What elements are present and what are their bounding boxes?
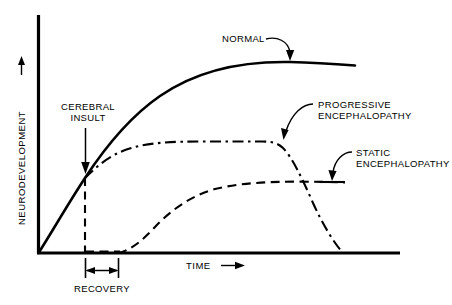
recovery-arrow-right-icon bbox=[109, 267, 119, 274]
figure-page: NEURODEVELOPMENT TIME CEREBRAL bbox=[0, 0, 452, 305]
y-axis-arrow-icon bbox=[18, 56, 25, 75]
static-encephalopathy-label-line2: ENCEPHALOPATHY bbox=[356, 158, 450, 169]
y-axis-label-group: NEURODEVELOPMENT bbox=[16, 56, 27, 225]
static-encephalopathy-label-line1: STATIC bbox=[356, 147, 390, 158]
chart-axes bbox=[37, 15, 400, 254]
x-axis-arrow-icon bbox=[221, 262, 245, 270]
cerebral-insult-label-line1: CEREBRAL bbox=[61, 101, 115, 112]
normal-label: NORMAL bbox=[222, 33, 265, 44]
progressive-encephalopathy-annotation: PROGRESSIVE ENCEPHALOPATHY bbox=[281, 99, 412, 140]
cerebral-insult-annotation: CEREBRAL INSULT bbox=[61, 101, 115, 174]
y-axis-label: NEURODEVELOPMENT bbox=[16, 111, 27, 225]
x-axis-label: TIME bbox=[186, 260, 211, 271]
neurodevelopment-chart: NEURODEVELOPMENT TIME CEREBRAL bbox=[0, 0, 452, 305]
static-encephalopathy-annotation: STATIC ENCEPHALOPATHY bbox=[320, 147, 450, 182]
progressive-encephalopathy-label-line1: PROGRESSIVE bbox=[318, 99, 391, 110]
cerebral-insult-label-line2: INSULT bbox=[70, 112, 105, 123]
static-encephalopathy-curve bbox=[118, 182, 345, 253]
recovery-label: RECOVERY bbox=[74, 283, 130, 294]
x-axis-label-group: TIME bbox=[186, 260, 245, 271]
progressive-leader-arrow-icon bbox=[281, 104, 313, 140]
cerebral-insult-arrow-icon bbox=[81, 128, 90, 174]
progressive-encephalopathy-curve bbox=[85, 142, 343, 254]
recovery-annotation: RECOVERY bbox=[74, 258, 130, 294]
static-leader-arrow-icon bbox=[320, 152, 352, 182]
recovery-arrow-left-icon bbox=[86, 267, 96, 274]
progressive-encephalopathy-label-line2: ENCEPHALOPATHY bbox=[318, 110, 412, 121]
normal-annotation: NORMAL bbox=[222, 33, 294, 61]
normal-leader-arrow-icon bbox=[266, 38, 294, 61]
